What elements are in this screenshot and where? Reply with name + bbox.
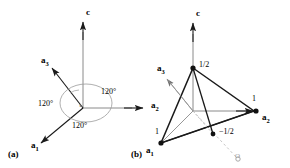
panel-a-a1-axis-label: a1 <box>31 141 39 152</box>
figure-root: c a2 a3 a1 120° 120° 120° ⌞ (a) c a2 a3 … <box>0 0 290 168</box>
panel-b-intercept-label-a2: 1 <box>252 95 256 103</box>
panel-b-plane-triangle <box>161 68 254 143</box>
panel-a-angle-arc-a3-c <box>70 90 79 93</box>
panel-a-c-axis-label: c <box>86 8 90 17</box>
panel-b-edge-half-to-neghalf <box>193 68 213 134</box>
panel-a-a2-axis-label: a2 <box>151 101 159 112</box>
figure-svg <box>0 0 290 168</box>
panel-b-point-a2-one <box>253 108 258 113</box>
panel-a-angle-label-a2-a1: 120° <box>72 122 87 130</box>
panel-b-construction-a3-to-a1 <box>167 79 193 111</box>
panel-a-a3-axis-label: a3 <box>41 56 49 67</box>
panel-b-a3-axis-label: a3 <box>157 64 165 75</box>
panel-a-caption: (a) <box>8 150 19 159</box>
panel-b-point-a1-one <box>158 140 163 145</box>
panel-b-intercept-label-c: 1/2 <box>199 61 209 69</box>
panel-b-a1-axis-label: a1 <box>146 146 154 157</box>
panel-a-angle-label-a1-a3: 120° <box>38 100 53 108</box>
panel-b-point-a3-neg-half <box>211 132 216 137</box>
panel-b-c-axis-label: c <box>196 9 200 18</box>
panel-a-graphics <box>41 22 143 143</box>
panel-b-a2-axis-label: a2 <box>262 113 270 124</box>
panel-b-caption: (b) <box>131 150 142 159</box>
panel-b-intercept-label-a1: 1 <box>155 128 159 136</box>
panel-b-intercept-label-a3: −1/2 <box>219 128 234 136</box>
panel-a-right-angle-marker-icon: ⌞ <box>79 99 83 108</box>
panel-b-origin-label: O <box>235 153 240 160</box>
panel-b-graphics <box>158 23 258 161</box>
panel-b-point-c-half <box>190 65 195 70</box>
panel-a-angle-label-a3-a2: 120° <box>101 88 116 96</box>
